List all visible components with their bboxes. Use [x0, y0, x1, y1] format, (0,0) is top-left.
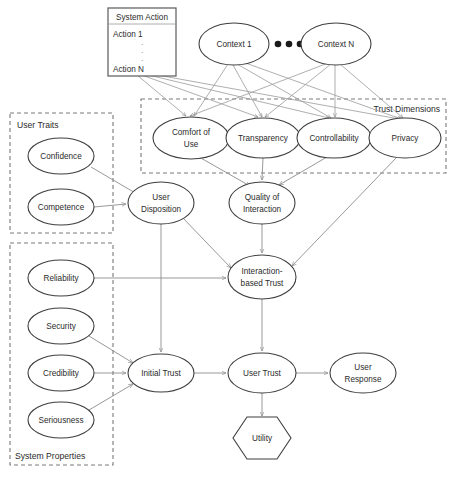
node-controllability[interactable]: Controllability: [297, 118, 371, 158]
context-1-label: Context 1: [216, 40, 251, 49]
interaction-based-trust-ellipse: [228, 255, 296, 299]
edge-confidence-to-disposition: [91, 167, 137, 194]
context-dot-1: [275, 41, 282, 48]
system-action-ellipsis-dot-3: ·: [141, 56, 144, 65]
quality-of-interaction-label-line2: Interaction: [243, 205, 282, 214]
quality-of-interaction-label-line1: Quality of: [245, 193, 280, 202]
diagram-canvas: Trust Dimensions User Traits System Prop…: [0, 0, 454, 477]
reliability-label: Reliability: [43, 274, 79, 283]
system-action-header: System Action: [116, 13, 168, 22]
node-credibility[interactable]: Credibility: [28, 355, 94, 391]
user-disposition-ellipse: [128, 182, 194, 224]
edge-comfort-to-quality: [199, 157, 250, 186]
credibility-label: Credibility: [43, 369, 80, 378]
node-interaction-based-trust[interactable]: Interaction- based Trust: [228, 255, 296, 299]
user-disposition-label-line1: User: [152, 193, 170, 202]
interaction-based-trust-label-line1: Interaction-: [242, 267, 283, 276]
node-competence[interactable]: Competence: [28, 189, 94, 225]
edge-system-action-to-controllability: [140, 73, 329, 118]
system-action-row-n: Action N: [113, 65, 144, 74]
system-properties-label: System Properties: [15, 451, 85, 461]
privacy-label: Privacy: [392, 134, 420, 143]
quality-of-interaction-ellipse: [229, 182, 295, 224]
user-response-ellipse: [330, 353, 396, 393]
node-reliability[interactable]: Reliability: [28, 260, 94, 296]
context-n-label: Context N: [318, 40, 354, 49]
edge-context1-to-controllability: [237, 64, 331, 118]
initial-trust-label: Initial Trust: [141, 369, 181, 378]
interaction-based-trust-label-line2: based Trust: [241, 279, 285, 288]
confidence-label: Confidence: [40, 152, 82, 161]
system-action-row-1: Action 1: [113, 30, 143, 39]
comfort-of-use-ellipse: [153, 117, 229, 159]
node-utility[interactable]: Utility: [233, 417, 291, 459]
edge-system-action-to-comfort: [137, 75, 186, 116]
node-transparency[interactable]: Transparency: [226, 118, 300, 158]
node-user-response[interactable]: User Response: [330, 353, 396, 393]
user-traits-label: User Traits: [17, 120, 59, 130]
node-confidence[interactable]: Confidence: [28, 138, 94, 174]
comfort-of-use-label-line1: Comfort of: [172, 128, 211, 137]
controllability-label: Controllability: [309, 134, 359, 143]
edge-system-action-to-transparency: [139, 74, 258, 117]
edge-controllability-to-quality: [279, 157, 327, 185]
edge-system-action-to-privacy: [141, 72, 399, 119]
node-context-1[interactable]: Context 1: [199, 23, 269, 65]
user-response-label-line2: Response: [345, 375, 382, 384]
context-ellipsis-dots: [275, 41, 304, 48]
node-privacy[interactable]: Privacy: [369, 118, 441, 158]
node-comfort-of-use[interactable]: Comfort of Use: [153, 117, 229, 159]
node-user-trust[interactable]: User Trust: [228, 353, 296, 393]
system-action-table[interactable]: System Action Action 1 · · · Action N: [108, 8, 176, 76]
trust-model-diagram: Trust Dimensions User Traits System Prop…: [0, 0, 454, 477]
comfort-of-use-label-line2: Use: [184, 140, 199, 149]
node-quality-of-interaction[interactable]: Quality of Interaction: [229, 182, 295, 224]
edge-privacy-to-interaction-trust: [292, 157, 397, 266]
edge-security-to-initial-trust: [89, 336, 133, 363]
edge-context1-to-privacy: [240, 61, 401, 119]
edge-disposition-to-interaction-trust: [182, 217, 231, 268]
edge-transparency-to-quality: [262, 158, 263, 180]
competence-label: Competence: [38, 203, 85, 212]
seriousness-label: Seriousness: [38, 416, 83, 425]
node-user-disposition[interactable]: User Disposition: [128, 182, 194, 224]
edge-competence-to-disposition: [94, 204, 126, 207]
user-response-label-line1: User: [354, 363, 372, 372]
utility-label: Utility: [252, 434, 273, 443]
security-label: Security: [46, 322, 76, 331]
node-seriousness[interactable]: Seriousness: [28, 402, 94, 438]
edge-seriousness-to-initial-trust: [89, 384, 133, 410]
user-trust-label: User Trust: [243, 369, 281, 378]
user-disposition-label-line2: Disposition: [141, 205, 181, 214]
node-initial-trust[interactable]: Initial Trust: [128, 354, 194, 392]
node-security[interactable]: Security: [28, 308, 94, 344]
node-context-n[interactable]: Context N: [301, 23, 371, 65]
context-dot-2: [286, 41, 293, 48]
transparency-label: Transparency: [238, 134, 289, 143]
